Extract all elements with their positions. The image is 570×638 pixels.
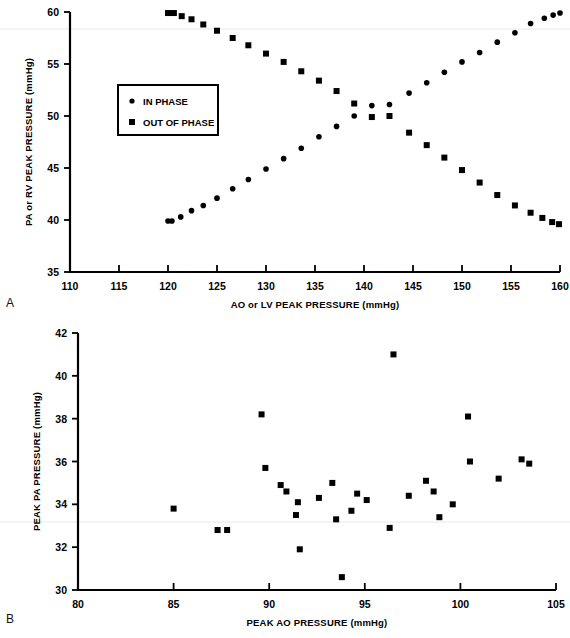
data-point-circle [281,156,287,162]
data-point-circle [316,134,322,140]
data-point-circle [214,195,220,201]
data-point-square [354,491,360,497]
data-point-square [295,499,301,505]
data-point-square [283,488,289,494]
data-point-square [263,51,269,57]
data-point-square [512,202,518,208]
data-point-circle [334,124,340,130]
y-axis-tick-label: 36 [55,456,67,468]
data-point-circle [387,102,393,108]
data-point-square [390,351,396,357]
data-point-square [200,21,206,27]
x-axis-tick-label: 115 [111,280,128,292]
x-axis-tick-label: 150 [453,280,471,292]
y-axis-tick-label: 30 [55,584,67,596]
y-axis-tick-label: 34 [55,498,67,510]
data-point-square [214,28,220,34]
data-point-square [215,527,221,533]
legend-marker-square [129,119,135,125]
data-point-square [224,527,230,533]
data-point-square [526,461,532,467]
data-point-circle [246,177,252,183]
data-point-circle [459,59,465,65]
data-point-circle [477,50,483,56]
data-point-square [316,78,322,84]
data-point-circle [557,10,563,16]
x-axis-tick-label: 120 [159,280,177,292]
data-point-square [339,574,345,580]
data-point-circle [369,103,375,109]
panel-a-chart: 3540455055601101151201251301351401451501… [0,0,570,320]
x-axis-tick-label: 110 [62,280,79,292]
data-point-square [556,221,562,227]
data-point-square [329,480,335,486]
data-point-square [423,478,429,484]
data-point-square [281,59,287,65]
y-axis-tick-label: 45 [47,162,59,174]
y-axis-tick-label: 40 [55,370,67,382]
data-point-circle [550,12,556,18]
figure-container: 3540455055601101151201251301351401451501… [0,0,570,638]
x-axis-tick-label: 100 [452,598,470,610]
data-point-square [351,101,357,107]
y-axis-tick-label: 60 [47,6,59,18]
data-point-circle [298,145,304,151]
axis-lines [78,333,556,590]
data-point-circle [424,80,430,86]
data-point-circle [494,39,500,45]
data-point-square [262,465,268,471]
x-axis-tick-label: 90 [263,598,275,610]
data-point-square [519,456,525,462]
series-peak-pa-vs-peak-ao [171,351,533,580]
y-axis-tick-label: 38 [55,413,67,425]
data-point-square [297,546,303,552]
data-point-square [364,497,370,503]
panel-a-svg: 3540455055601101151201251301351401451501… [0,0,570,320]
legend-label: IN PHASE [143,96,188,107]
x-axis-tick-label: 125 [208,280,226,292]
data-point-square [424,142,430,148]
data-point-square [496,476,502,482]
data-point-square [441,155,447,161]
x-axis-tick-label: 160 [551,280,569,292]
data-point-circle [351,113,357,119]
x-axis-tick-label: 145 [404,280,422,292]
data-point-circle [189,208,195,214]
data-point-square [293,512,299,518]
legend-marker-circle [129,98,134,103]
axis-lines [70,12,560,272]
data-point-square [406,493,412,499]
panel-b-svg: 3032343638404280859095100105PEAK PA PRES… [0,318,570,638]
x-axis-tick-label: 130 [257,280,275,292]
data-point-square [171,506,177,512]
x-axis-title: PEAK AO PRESSURE (mmHg) [247,617,388,628]
data-point-square [171,10,177,16]
panel-a-label: A [6,296,14,310]
data-point-square [259,411,265,417]
y-axis-tick-label: 40 [47,214,59,226]
data-point-circle [528,21,534,27]
panel-b-label: B [6,612,14,626]
data-point-square [494,192,500,198]
data-point-square [278,482,284,488]
panel-b-chart: 3032343638404280859095100105PEAK PA PRES… [0,318,570,638]
y-axis-tick-label: 55 [47,58,59,70]
y-axis-title: PEAK PA PRESSURE (mmHg) [31,392,42,531]
data-point-square [528,210,534,216]
x-axis-title: AO or LV PEAK PRESSURE (mmHg) [231,299,400,310]
x-axis-tick-label: 80 [72,598,84,610]
data-point-square [230,35,236,41]
data-point-square [189,16,195,22]
data-point-square [436,514,442,520]
data-point-square [387,525,393,531]
y-axis-title: PA or RV PEAK PRESSURE (mmHg) [23,58,34,226]
data-point-square [245,42,251,48]
data-point-circle [263,166,269,172]
data-point-circle [512,30,518,36]
data-point-square [465,414,471,420]
x-axis-tick-label: 105 [547,598,565,610]
x-axis-tick-label: 155 [502,280,520,292]
data-point-square [333,516,339,522]
series-in-phase [165,10,563,224]
x-axis-tick-label: 85 [168,598,180,610]
